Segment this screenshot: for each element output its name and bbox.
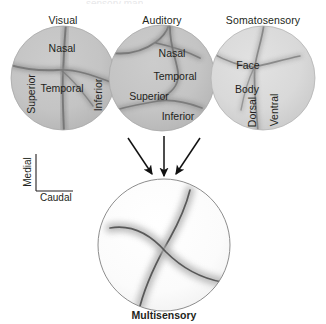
panel-title-visual: Visual [48,14,77,26]
orientation-axis-key [36,154,73,191]
panel-auditory-graphic [106,22,215,131]
panel-title-multisensory: Multisensory [132,309,197,321]
panel-multisensory-graphic [98,179,230,311]
panel-title-somatosensory: Somatosensory [226,14,300,26]
panel-title-auditory: Auditory [142,14,181,26]
panel-somatosensory-graphic [210,24,315,132]
arrow-left [128,138,152,174]
axis-label-caudal: Caudal [40,192,72,203]
figure-canvas [0,0,326,324]
convergence-arrows [128,136,200,176]
arrow-right [176,138,200,174]
sensory-map-figure: sensory map [0,0,326,324]
panel-visual-graphic [7,24,116,132]
axis-label-medial: Medial [22,157,33,186]
